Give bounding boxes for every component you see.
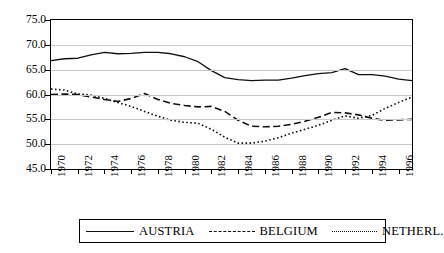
x-axis-label: 1990 <box>323 155 334 177</box>
legend-swatch-solid-icon <box>86 231 134 232</box>
y-axis-label: 75.0 <box>0 14 46 25</box>
x-axis-label: 1986 <box>270 155 281 177</box>
y-axis: 45.050.055.060.065.070.075.0 <box>0 0 50 253</box>
legend-item-belgium[interactable]: BELGIUM <box>209 224 318 239</box>
x-axis-tick <box>158 170 159 174</box>
legend-label: BELGIUM <box>260 224 318 239</box>
x-axis-tick <box>51 170 52 174</box>
gridline <box>51 45 412 46</box>
y-axis-label: 50.0 <box>0 138 46 149</box>
legend-item-austria[interactable]: AUSTRIA <box>86 224 195 239</box>
x-axis-tick <box>238 170 239 174</box>
x-axis-label: 1972 <box>83 155 94 177</box>
x-axis-label: 1978 <box>163 155 174 177</box>
x-axis-label: 1994 <box>377 155 388 177</box>
x-axis-label: 1974 <box>109 155 120 177</box>
chart-legend: AUSTRIABELGIUMNETHERL. <box>79 219 386 243</box>
x-axis-tick <box>318 170 319 174</box>
gridline <box>51 144 412 145</box>
x-axis-label: 1980 <box>190 155 201 177</box>
gridline <box>51 119 412 120</box>
x-axis-tick <box>78 170 79 174</box>
series-line-netherl <box>51 89 412 143</box>
x-axis-label: 1976 <box>136 155 147 177</box>
x-axis-tick <box>372 170 373 174</box>
x-axis-tick <box>211 170 212 174</box>
gridline <box>51 70 412 71</box>
series-line-austria <box>51 52 412 80</box>
y-axis-label: 70.0 <box>0 39 46 50</box>
x-axis-tick <box>185 170 186 174</box>
legend-label: AUSTRIA <box>139 224 195 239</box>
x-axis-tick <box>292 170 293 174</box>
legend-swatch-dotted-icon <box>332 231 377 232</box>
y-axis-label: 65.0 <box>0 64 46 75</box>
series-line-belgium <box>51 94 412 127</box>
x-axis-tick <box>131 170 132 174</box>
x-axis-tick <box>265 170 266 174</box>
y-axis-label: 55.0 <box>0 113 46 124</box>
x-axis-label: 1984 <box>243 155 254 177</box>
x-axis-label: 1996 <box>404 155 415 177</box>
legend-item-netherl[interactable]: NETHERL. <box>332 224 444 239</box>
x-axis-tick <box>104 170 105 174</box>
legend-swatch-dashed-icon <box>209 231 255 232</box>
x-axis-label: 1992 <box>350 155 361 177</box>
x-axis-label: 1982 <box>216 155 227 177</box>
plot-area <box>50 19 413 170</box>
x-axis-tick <box>399 170 400 174</box>
legend-label: NETHERL. <box>382 224 444 239</box>
gridline <box>51 95 412 96</box>
x-axis-tick <box>345 170 346 174</box>
x-axis-label: 1988 <box>297 155 308 177</box>
y-axis-label: 60.0 <box>0 89 46 100</box>
y-axis-label: 45.0 <box>0 163 46 174</box>
x-axis-label: 1970 <box>56 155 67 177</box>
